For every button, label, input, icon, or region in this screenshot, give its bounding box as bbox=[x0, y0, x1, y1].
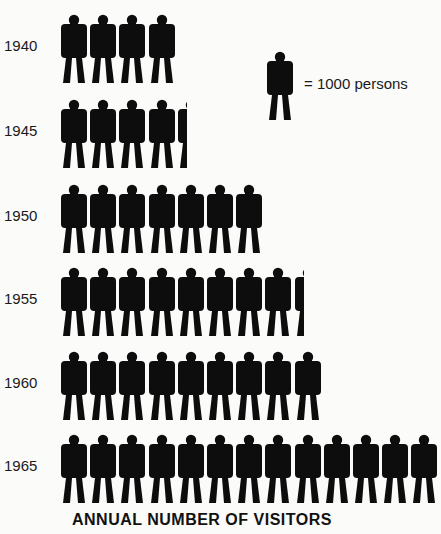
year-label: 1965 bbox=[4, 457, 37, 474]
legend: = 1000 persons bbox=[267, 50, 441, 120]
person-icon bbox=[353, 433, 380, 503]
person-icon bbox=[236, 266, 263, 336]
chart-row-1960: 1960 bbox=[0, 350, 441, 420]
person-icon bbox=[178, 183, 205, 253]
person-icon bbox=[207, 266, 234, 336]
person-icon bbox=[119, 13, 146, 83]
year-label: 1955 bbox=[4, 290, 37, 307]
person-icon bbox=[149, 13, 176, 83]
year-label: 1945 bbox=[4, 122, 37, 139]
person-icon bbox=[236, 350, 263, 420]
person-icon bbox=[178, 98, 187, 168]
person-icon bbox=[61, 350, 88, 420]
person-icon bbox=[265, 350, 292, 420]
person-icon bbox=[61, 98, 88, 168]
person-icon bbox=[90, 433, 117, 503]
person-icon bbox=[267, 50, 294, 120]
chart-row-1955: 1955 bbox=[0, 266, 441, 336]
person-icon bbox=[411, 433, 438, 503]
person-icon bbox=[90, 13, 117, 83]
year-label: 1940 bbox=[4, 37, 37, 54]
person-icon bbox=[149, 350, 176, 420]
person-icon bbox=[207, 183, 234, 253]
person-icon bbox=[178, 433, 205, 503]
person-icon bbox=[90, 350, 117, 420]
person-icon bbox=[119, 183, 146, 253]
person-icon bbox=[119, 98, 146, 168]
person-icon bbox=[149, 183, 176, 253]
person-icon bbox=[324, 433, 351, 503]
person-icon bbox=[61, 13, 88, 83]
person-icon bbox=[119, 433, 146, 503]
person-icon bbox=[382, 433, 409, 503]
person-icon bbox=[236, 183, 263, 253]
person-icon bbox=[90, 266, 117, 336]
person-icon bbox=[265, 433, 292, 503]
person-icon bbox=[61, 183, 88, 253]
person-icon bbox=[178, 266, 205, 336]
person-icon bbox=[61, 433, 88, 503]
person-icon bbox=[90, 183, 117, 253]
chart-row-1965: 1965 bbox=[0, 433, 441, 503]
person-icon bbox=[149, 98, 176, 168]
person-icon bbox=[178, 350, 205, 420]
year-label: 1950 bbox=[4, 207, 37, 224]
person-icon bbox=[90, 98, 117, 168]
person-icon bbox=[149, 266, 176, 336]
person-icon bbox=[295, 266, 304, 336]
person-icon bbox=[265, 266, 292, 336]
person-icon bbox=[119, 350, 146, 420]
person-icon bbox=[295, 433, 322, 503]
legend-label: = 1000 persons bbox=[304, 75, 408, 92]
person-icon bbox=[149, 433, 176, 503]
person-icon bbox=[236, 433, 263, 503]
person-icon bbox=[119, 266, 146, 336]
person-icon bbox=[295, 350, 322, 420]
chart-row-1950: 1950 bbox=[0, 183, 441, 253]
person-icon bbox=[207, 350, 234, 420]
person-icon bbox=[61, 266, 88, 336]
chart-title: ANNUAL NUMBER OF VISITORS bbox=[72, 511, 332, 529]
year-label: 1960 bbox=[4, 374, 37, 391]
person-icon bbox=[207, 433, 234, 503]
